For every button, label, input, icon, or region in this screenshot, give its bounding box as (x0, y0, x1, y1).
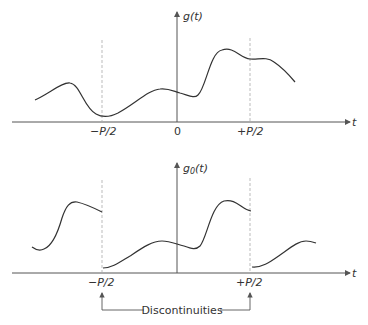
bottom-curve-seg-right (252, 241, 316, 267)
top-plot: g(t) t −P/2 0 +P/2 (12, 10, 357, 138)
discontinuities-label: Discontinuities (141, 304, 223, 317)
bottom-y-label: g0(t) (183, 162, 208, 176)
top-curve-g (35, 49, 295, 116)
top-y-label: g(t) (183, 10, 203, 23)
top-x-label: t (352, 116, 357, 129)
bottom-curve-seg-left (32, 202, 102, 250)
top-tick-zero: 0 (174, 125, 181, 138)
bottom-tick-pos-half-p: +P/2 (236, 276, 263, 289)
diagram: g(t) t −P/2 0 +P/2 g0(t) t −P/2 +P/2 Dis… (0, 0, 368, 325)
bottom-tick-neg-half-p: −P/2 (88, 276, 115, 289)
bottom-x-label: t (352, 267, 357, 280)
top-tick-pos-half-p: +P/2 (237, 125, 264, 138)
discontinuities-annotation: Discontinuities (102, 293, 250, 317)
top-tick-neg-half-p: −P/2 (90, 125, 117, 138)
bottom-plot: g0(t) t −P/2 +P/2 (12, 162, 357, 289)
